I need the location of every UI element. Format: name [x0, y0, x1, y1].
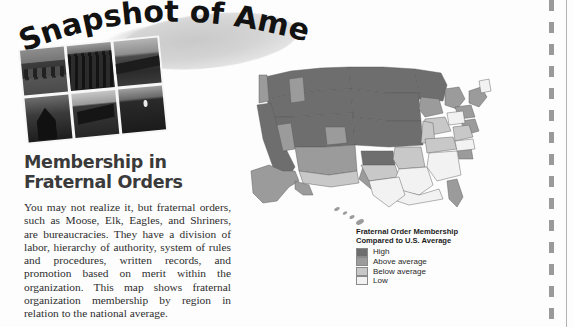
- legend-item-above-average: Above average: [356, 257, 506, 267]
- page-canvas: Snapshot of America Membership in Frater…: [0, 0, 573, 327]
- map-region-kentucky-tennessee: [425, 137, 457, 153]
- map-region-oklahoma: [361, 151, 395, 165]
- map-region-southwest: [295, 145, 357, 175]
- map-region-south-texas: [369, 177, 405, 207]
- map-region-maine: [479, 79, 491, 93]
- svg-text:Snapshot of America: Snapshot of America: [0, 0, 314, 58]
- map-region-colorado-edge: [325, 127, 347, 145]
- legend-item-low: Low: [356, 276, 506, 286]
- map-region-minnesota-wisconsin: [419, 97, 443, 117]
- map-region-georgia-alabama: [427, 151, 461, 181]
- collage-photo-house: [24, 94, 72, 143]
- legend-swatch-below-average: [356, 267, 368, 276]
- map-region-dakotas-nebraska: [351, 89, 421, 121]
- legend-swatch-high: [356, 248, 368, 257]
- map-region-northern-plains: [349, 67, 419, 93]
- page-edge-rule: [566, 0, 567, 327]
- map-region-florida: [447, 179, 463, 207]
- map-region-carolinas-inland: [455, 139, 475, 151]
- legend-label-below-average: Below average: [373, 267, 426, 277]
- legend-swatch-low: [356, 276, 368, 285]
- legend-item-high: High: [356, 247, 506, 257]
- map-region-hawaii: [334, 206, 365, 226]
- map-legend: Fraternal Order Membership Compared to U…: [356, 227, 506, 286]
- legend-title: Fraternal Order Membership Compared to U…: [356, 227, 506, 245]
- map-region-virginia: [453, 125, 473, 141]
- legend-label-above-average: Above average: [373, 257, 427, 267]
- legend-swatch-above-average: [356, 257, 368, 266]
- map-region-upper-midwest: [415, 69, 447, 101]
- legend-label-low: Low: [373, 276, 388, 286]
- map-region-michigan: [445, 87, 465, 109]
- legend-item-below-average: Below average: [356, 267, 506, 277]
- article: Membership in Fraternal Orders You may n…: [24, 152, 231, 321]
- legend-label-high: High: [373, 247, 389, 257]
- page-title: Membership in Fraternal Orders: [24, 152, 231, 192]
- map-region-missouri-arkansas: [393, 147, 425, 169]
- collage-photo-barn-interior: [71, 89, 119, 138]
- map-region-pennsylvania: [447, 111, 465, 125]
- map-region-kansas-iowa: [353, 117, 423, 147]
- masthead-title-text: Snapshot of America: [0, 0, 314, 58]
- page-binding-dashed-line: [549, 0, 554, 327]
- article-body-text: You may not realize it, but fraternal or…: [24, 201, 231, 321]
- masthead-title: Snapshot of America: [0, 0, 320, 90]
- collage-photo-field-night: [118, 85, 166, 134]
